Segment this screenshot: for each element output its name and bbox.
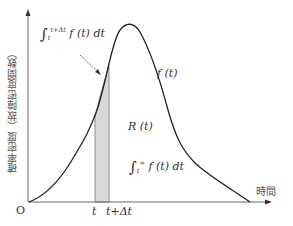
integral-body: f (t) dt [148, 160, 184, 173]
origin-label: O [16, 205, 25, 216]
pointer-line [80, 55, 98, 72]
y-axis-arrow-icon [26, 9, 31, 16]
shaded-strip [95, 66, 109, 202]
curve-label: f (t) [157, 68, 178, 79]
integral-lower: t [137, 167, 140, 175]
region-label: R (t) [128, 121, 153, 132]
integral-upper: t+Δt [50, 26, 65, 34]
x-axis-label: 時間 [256, 187, 276, 197]
t-dt-tick-label: t+Δt [106, 206, 132, 217]
density-curve [29, 24, 250, 202]
integral-sign: ∫ [40, 25, 48, 43]
t-tick-label: t [92, 206, 96, 217]
x-axis-arrow-icon [265, 200, 272, 205]
tail-integral-label: ∫t∞ f (t) dt [129, 160, 184, 175]
integral-upper: ∞ [139, 159, 144, 167]
strip-integral-label: ∫tt+Δt f (t) dt [40, 27, 105, 42]
integral-sign: ∫ [129, 158, 137, 176]
pointer-arrow-icon [95, 69, 101, 75]
y-axis-label: 確率密度（故障密度関数） [6, 40, 20, 180]
integral-body: f (t) dt [69, 27, 105, 40]
integral-lower: t [48, 34, 51, 42]
